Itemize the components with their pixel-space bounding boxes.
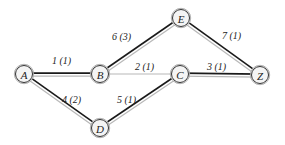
graph-diagram: 1 (1)6 (3)7 (1)2 (1)3 (1)4 (2)5 (1) ABEC… [0,0,285,145]
node-label-A: A [20,69,28,81]
node-C: C [170,64,189,83]
edge-label-A-D: 4 (2) [62,94,82,106]
edge-label-D-C: 5 (1) [117,94,137,106]
edge-label-E-Z: 7 (1) [222,30,242,42]
edge-C-Z [180,73,260,77]
node-label-Z: Z [257,70,264,82]
node-E: E [171,8,190,27]
node-label-B: B [97,69,104,81]
edge-label-B-C: 2 (1) [135,61,155,73]
edge-label-A-B: 1 (1) [52,55,72,67]
node-Z: Z [250,65,269,84]
node-label-E: E [177,13,185,25]
node-B: B [90,64,109,83]
node-label-D: D [95,123,104,135]
node-label-C: C [176,69,184,81]
node-D: D [90,118,109,137]
edge-label-C-Z: 3 (1) [206,61,227,73]
edge-D-C [100,73,182,130]
edge-label-B-E: 6 (3) [112,31,132,43]
node-A: A [14,64,33,83]
edge-A-B [24,73,100,76]
